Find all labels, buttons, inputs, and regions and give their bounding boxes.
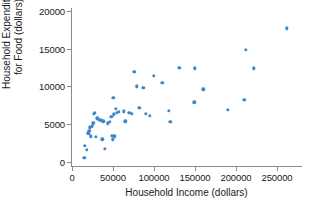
data-point	[133, 70, 136, 73]
data-point	[85, 148, 88, 151]
data-point	[103, 147, 106, 150]
y-axis-title-line1: Household Expenditure	[1, 0, 13, 113]
scatter-plot-figure: 05000100001500020000 0500001000001500002…	[0, 0, 309, 209]
data-point	[142, 86, 145, 89]
data-point	[117, 110, 120, 113]
data-point	[160, 81, 163, 84]
data-point	[89, 135, 92, 138]
y-axis-title: Household Expenditure for Food (dollars)	[1, 0, 27, 113]
data-point	[244, 48, 247, 51]
data-point	[252, 67, 255, 70]
data-point	[201, 88, 204, 91]
data-point	[144, 112, 147, 115]
data-point	[93, 111, 96, 114]
data-point	[242, 98, 245, 101]
y-axis-title-line2: for Food (dollars)	[13, 0, 25, 113]
x-axis-title: Household Income (dollars)	[71, 187, 302, 198]
data-point	[130, 112, 133, 115]
data-point	[178, 66, 181, 69]
data-point	[101, 138, 104, 141]
data-point	[169, 120, 172, 123]
data-point	[148, 114, 151, 117]
data-point	[87, 129, 90, 132]
data-point	[83, 156, 86, 159]
data-point	[193, 67, 196, 70]
data-point	[112, 96, 115, 99]
data-point	[135, 85, 138, 88]
data-point	[92, 121, 95, 124]
data-point	[101, 119, 104, 122]
chart-screenshot: 05000100001500020000 0500001000001500002…	[0, 0, 309, 209]
data-point	[122, 110, 125, 113]
data-points-layer	[0, 0, 309, 209]
data-point	[113, 135, 116, 138]
data-point	[137, 106, 140, 109]
data-point	[226, 108, 229, 111]
data-point	[192, 101, 195, 104]
data-point	[152, 74, 155, 77]
data-point	[111, 138, 114, 141]
data-point	[285, 26, 288, 29]
data-point	[167, 109, 170, 112]
data-point	[108, 120, 111, 123]
data-point	[124, 119, 127, 122]
data-point	[94, 135, 97, 138]
